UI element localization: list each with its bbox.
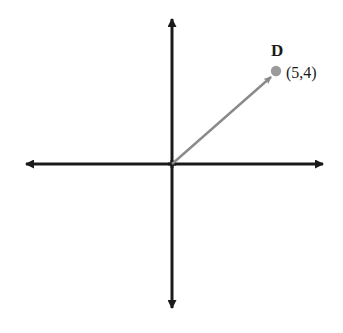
coordinate-plane-svg (0, 0, 343, 333)
vector-diagram-figure: D (5,4) (0, 0, 343, 333)
point-d-marker (271, 66, 281, 76)
vector-d-arrow (172, 77, 271, 164)
